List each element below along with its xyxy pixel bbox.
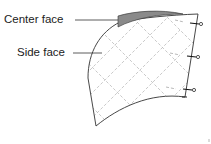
curved-sheet-diagram — [0, 0, 211, 144]
side-face-outline — [88, 14, 198, 126]
pin-top — [175, 20, 203, 26]
center-face-shape — [118, 11, 183, 27]
dashed-grid — [85, 10, 205, 135]
pin-bottom — [166, 87, 196, 97]
pin-middle — [170, 53, 200, 59]
